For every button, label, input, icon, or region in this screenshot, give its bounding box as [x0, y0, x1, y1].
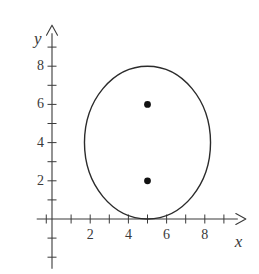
ellipse-figure: 24682468xy: [0, 0, 259, 274]
y-tick-label: 2: [30, 174, 44, 188]
oval-curve: [84, 66, 210, 219]
data-point-marker: [144, 177, 151, 184]
x-axis-label: x: [235, 233, 243, 250]
x-tick-label: 2: [82, 228, 98, 242]
x-tick-label: 8: [197, 228, 213, 242]
y-axis-label: y: [34, 30, 42, 47]
y-tick-label: 6: [30, 97, 44, 111]
y-tick-label: 4: [30, 136, 44, 150]
x-tick-label: 6: [159, 228, 175, 242]
x-tick-label: 4: [120, 228, 136, 242]
y-tick-label: 8: [30, 59, 44, 73]
data-point-marker: [144, 101, 151, 108]
